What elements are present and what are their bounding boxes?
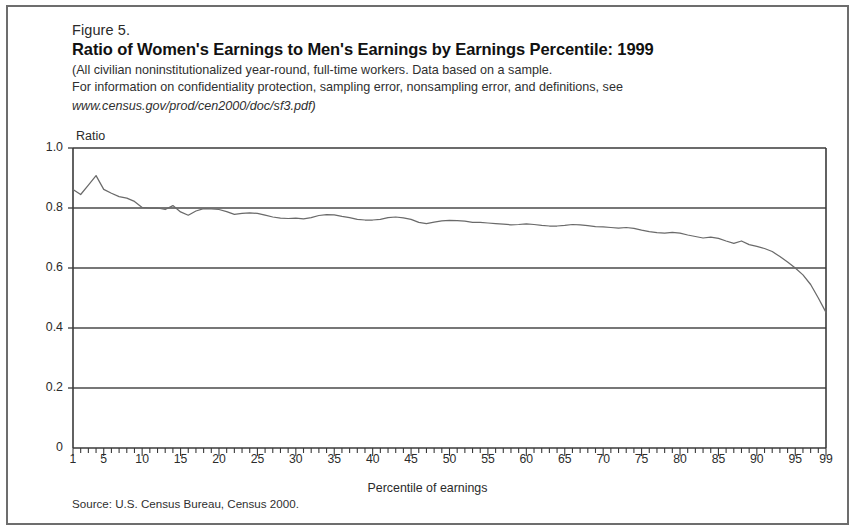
- y-axis-tick-label: 0.6: [27, 260, 63, 274]
- x-axis-tick-label: 99: [811, 452, 841, 466]
- y-axis-tick-label: 0.2: [27, 380, 63, 394]
- x-axis-tick-label: 10: [127, 452, 157, 466]
- x-axis-tick-label: 20: [204, 452, 234, 466]
- x-axis-ticks-group: [68, 148, 826, 456]
- x-axis-tick-label: 55: [473, 452, 503, 466]
- x-axis-tick-label: 40: [358, 452, 388, 466]
- x-axis-tick-label: 70: [588, 452, 618, 466]
- chart-plot-area: [0, 0, 855, 530]
- data-series-group: [73, 176, 826, 313]
- x-axis-tick-label: 95: [780, 452, 810, 466]
- x-axis-tick-label: 50: [435, 452, 465, 466]
- gridlines-group: [73, 208, 826, 388]
- x-axis-tick-label: 30: [281, 452, 311, 466]
- source-note: Source: U.S. Census Bureau, Census 2000.: [72, 497, 299, 510]
- x-axis-tick-label: 35: [319, 452, 349, 466]
- y-axis-tick-label: 1.0: [27, 140, 63, 154]
- plot-frame-group: [73, 148, 826, 448]
- line-chart-svg: [0, 0, 855, 530]
- figure-root: Figure 5. Ratio of Women's Earnings to M…: [0, 0, 855, 530]
- x-axis-tick-label: 85: [703, 452, 733, 466]
- x-axis-tick-label: 90: [742, 452, 772, 466]
- x-axis-tick-label: 80: [665, 452, 695, 466]
- x-axis-tick-label: 5: [89, 452, 119, 466]
- x-axis-tick-label: 1: [58, 452, 88, 466]
- x-axis-title: Percentile of earnings: [0, 481, 855, 495]
- x-axis-tick-label: 15: [166, 452, 196, 466]
- y-axis-tick-label: 0.4: [27, 320, 63, 334]
- y-axis-tick-label: 0.8: [27, 200, 63, 214]
- x-axis-tick-label: 45: [396, 452, 426, 466]
- data-line-earnings-ratio: [73, 176, 826, 313]
- x-axis-tick-label: 25: [242, 452, 272, 466]
- x-axis-tick-label: 75: [627, 452, 657, 466]
- x-axis-tick-label: 60: [511, 452, 541, 466]
- x-axis-tick-label: 65: [550, 452, 580, 466]
